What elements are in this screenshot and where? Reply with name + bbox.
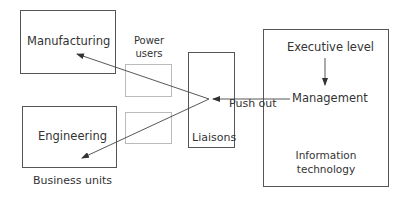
arrow-to-manufacturing: [77, 54, 209, 99]
arrows-overlay: [0, 0, 407, 197]
arrow-to-engineering: [82, 99, 209, 158]
